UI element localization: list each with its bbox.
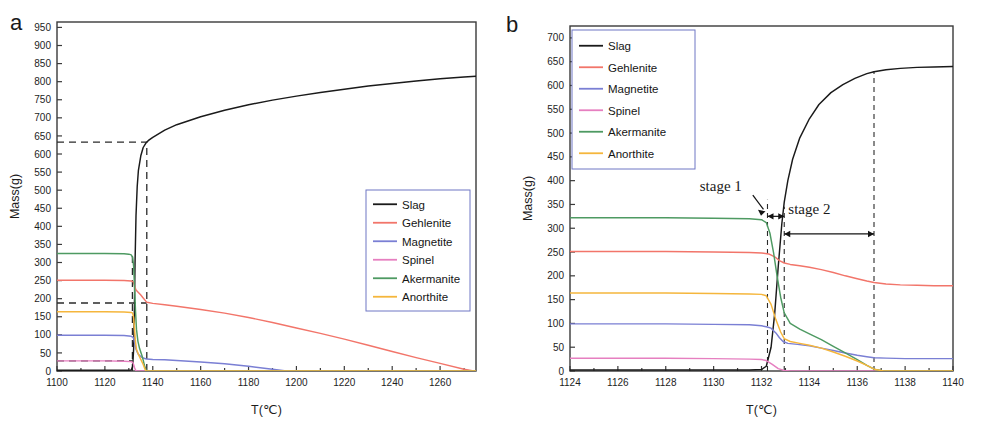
x-tick-label: 1136 [846, 377, 868, 388]
stage-marker: stage 1 [700, 178, 784, 219]
y-tick-label: 300 [34, 257, 51, 268]
legend-label-anorthite: Anorthite [402, 291, 448, 303]
legend-label-magnetite: Magnetite [608, 83, 659, 95]
panel-letter: b [506, 12, 518, 37]
y-tick-label: 200 [34, 293, 51, 304]
x-tick-label: 1160 [190, 377, 212, 388]
y-tick-label: 650 [34, 131, 51, 142]
y-tick-label: 600 [547, 80, 564, 91]
y-tick-label: 250 [34, 275, 51, 286]
x-tick-label: 1124 [559, 377, 581, 388]
y-tick-label: 500 [34, 185, 51, 196]
y-tick-label: 0 [45, 366, 51, 377]
y-tick-label: 250 [547, 247, 564, 258]
stage1-pointer-head [758, 210, 766, 216]
legend-label-spinel: Spinel [402, 254, 434, 266]
y-axis: 0501001502002503003504004505005506006507… [34, 22, 62, 377]
stage-arrow-head [868, 231, 874, 237]
series-line-magnetite [570, 324, 953, 359]
y-tick-label: 850 [34, 58, 51, 69]
y-tick-label: 550 [34, 167, 51, 178]
legend: SlagGehleniteMagnetiteSpinelAkermaniteAn… [366, 190, 470, 311]
legend-label-anorthite: Anorthite [608, 148, 654, 160]
y-tick-label: 750 [34, 94, 51, 105]
stage-label: stage 2 [788, 201, 830, 217]
y-tick-label: 300 [547, 223, 564, 234]
x-tick-label: 1200 [285, 377, 308, 388]
legend-label-slag: Slag [608, 40, 631, 52]
y-tick-label: 450 [34, 203, 51, 214]
y-tick-label: 100 [34, 329, 51, 340]
x-tick-label: 1130 [703, 377, 725, 388]
legend-label-akermanite: Akermanite [402, 273, 460, 285]
x-axis: 110011201140116011801200122012401260 [46, 366, 464, 388]
stage-marker: stage 2 [784, 201, 874, 237]
x-tick-label: 1140 [942, 377, 964, 388]
y-tick-label: 450 [547, 151, 564, 162]
y-tick-label: 400 [547, 175, 564, 186]
x-tick-label: 1260 [429, 377, 452, 388]
stage-arrow-head [784, 231, 790, 237]
y-tick-label: 600 [34, 149, 51, 160]
y-tick-label: 200 [547, 270, 564, 281]
y-tick-label: 650 [547, 56, 564, 67]
legend: SlagGehleniteMagnetiteSpinelAkermaniteAn… [572, 30, 695, 169]
legend-label-magnetite: Magnetite [402, 236, 453, 248]
panel-letter: a [10, 10, 23, 35]
y-tick-label: 50 [553, 342, 565, 353]
y-axis-title: Mass(g) [8, 174, 22, 219]
y-tick-label: 400 [34, 221, 51, 232]
x-tick-label: 1140 [142, 377, 164, 388]
x-tick-label: 1128 [655, 377, 677, 388]
y-tick-label: 100 [547, 318, 564, 329]
x-tick-label: 1100 [46, 377, 68, 388]
x-tick-label: 1132 [751, 377, 773, 388]
legend-label-gehlenite: Gehlenite [402, 217, 451, 229]
y-tick-label: 700 [34, 112, 51, 123]
stage-arrow-head [767, 213, 773, 219]
x-tick-label: 1138 [894, 377, 916, 388]
legend-label-spinel: Spinel [608, 105, 640, 117]
y-tick-label: 350 [34, 239, 51, 250]
x-tick-label: 1134 [799, 377, 821, 388]
chart-panel-b: b050100150200250300350400450500550600650… [494, 0, 988, 423]
legend-label-akermanite: Akermanite [608, 126, 666, 138]
x-tick-label: 1220 [333, 377, 356, 388]
y-tick-label: 700 [547, 32, 564, 43]
x-axis-title: T(℃) [251, 403, 282, 417]
series-line-spinel [57, 361, 476, 371]
chart-panel-a: a050100150200250300350400450500550600650… [0, 0, 494, 423]
x-axis-title: T(℃) [746, 403, 777, 417]
y-tick-label: 150 [34, 311, 51, 322]
y-tick-label: 150 [547, 294, 564, 305]
panel-a-svg: a050100150200250300350400450500550600650… [0, 0, 494, 423]
legend-label-slag: Slag [402, 199, 425, 211]
x-tick-label: 1180 [238, 377, 260, 388]
panel-b-svg: b050100150200250300350400450500550600650… [494, 0, 988, 423]
y-tick-label: 500 [547, 128, 564, 139]
x-tick-label: 1126 [607, 377, 629, 388]
y-tick-label: 50 [40, 348, 52, 359]
legend-label-gehlenite: Gehlenite [608, 62, 657, 74]
x-tick-label: 1240 [381, 377, 404, 388]
y-tick-label: 950 [34, 22, 51, 33]
stage1-pointer-line [753, 195, 764, 209]
y-tick-label: 900 [34, 40, 51, 51]
y-tick-label: 350 [547, 199, 564, 210]
y-axis: 0501001502002503003504004505005506006507… [547, 32, 575, 376]
y-tick-label: 0 [558, 366, 564, 377]
x-tick-label: 1120 [94, 377, 116, 388]
series-line-magnetite [57, 335, 476, 371]
y-tick-label: 550 [547, 104, 564, 115]
y-tick-label: 800 [34, 76, 51, 87]
y-axis-title: Mass(g) [521, 176, 535, 221]
stage-label: stage 1 [700, 178, 742, 194]
series-line-gehlenite [570, 252, 953, 286]
figure-root: a050100150200250300350400450500550600650… [0, 0, 988, 423]
